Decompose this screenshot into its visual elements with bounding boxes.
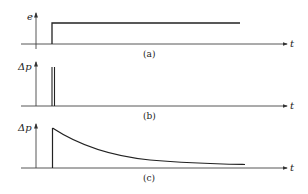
y-label-c: Δp [17, 122, 32, 133]
x-label-b: t [290, 100, 295, 111]
panel-c: Δp t (c) [17, 122, 295, 183]
caption-c: (c) [143, 173, 155, 183]
y-label-a: e [27, 11, 33, 22]
decay-curve [53, 128, 246, 165]
x-label-a: t [290, 38, 295, 49]
panel-a: e t (a) [21, 11, 295, 59]
y-label-b: Δp [17, 61, 32, 72]
step-signal [52, 23, 240, 44]
caption-b: (b) [143, 111, 156, 121]
diagram-canvas: e t (a) Δp t (b) Δp t (c) [0, 0, 308, 194]
x-label-c: t [290, 162, 295, 173]
caption-a: (a) [143, 49, 155, 59]
panel-b: Δp t (b) [17, 61, 295, 121]
